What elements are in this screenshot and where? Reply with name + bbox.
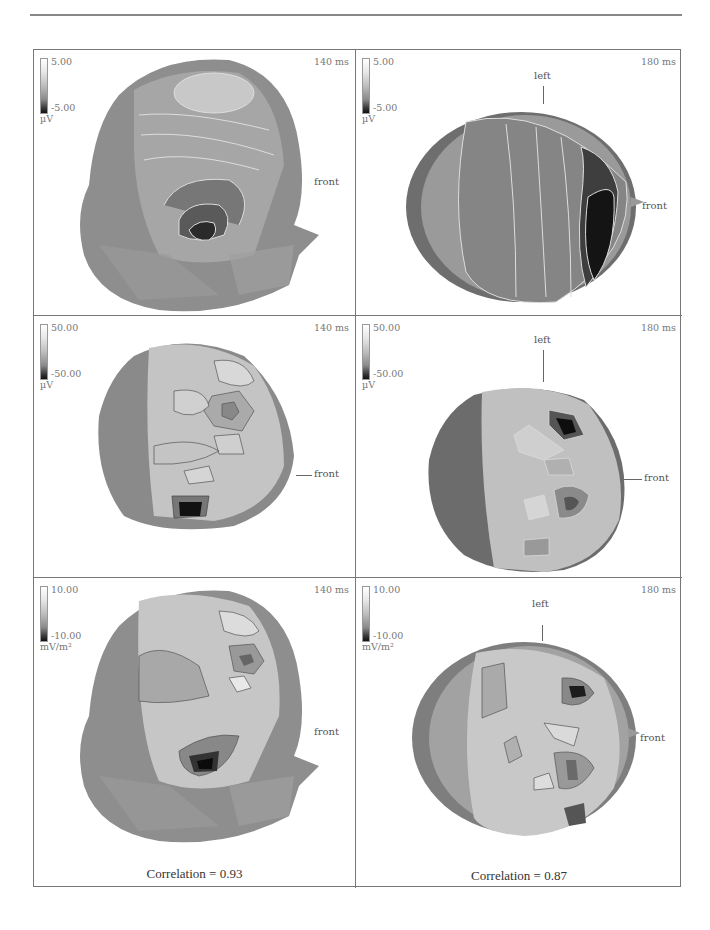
head-side-laplacian-map: [79, 586, 319, 846]
head-top-current-density-map: [424, 380, 634, 576]
color-scale-bar: [40, 586, 48, 642]
scale-unit-label: µV: [362, 113, 375, 124]
scale-max-label: 50.00: [51, 322, 78, 333]
left-label: left: [532, 598, 549, 609]
front-marker-line: [624, 479, 642, 480]
color-scale-bar: [362, 324, 370, 380]
panel-row1-right: 5.00 -5.00 µV 180 ms left front: [356, 50, 682, 316]
front-label: front: [640, 732, 665, 743]
time-label: 180 ms: [641, 322, 676, 333]
page-header-rule: [30, 14, 682, 16]
scale-max-label: 5.00: [373, 56, 394, 67]
scale-unit-label: mV/m²: [40, 641, 72, 652]
figure-grid: 5.00 -5.00 µV 140 ms front 5.00 -5.00 µV…: [33, 49, 681, 887]
time-label: 180 ms: [641, 56, 676, 67]
color-scale-bar: [40, 324, 48, 380]
correlation-caption: Correlation = 0.93: [34, 866, 355, 882]
time-label: 140 ms: [314, 322, 349, 333]
scale-max-label: 50.00: [373, 322, 400, 333]
head-side-current-density-map: [94, 336, 294, 536]
head-side-potential-map: [79, 55, 319, 315]
front-label: front: [314, 726, 339, 737]
time-label: 140 ms: [314, 584, 349, 595]
color-scale-bar: [362, 58, 370, 114]
left-marker-line: [543, 350, 544, 382]
front-label: front: [644, 472, 669, 483]
scale-min-label: -10.00: [373, 630, 403, 641]
panel-row1-left: 5.00 -5.00 µV 140 ms front: [34, 50, 356, 316]
correlation-caption: Correlation = 0.87: [356, 868, 682, 884]
scale-min-label: -5.00: [373, 102, 397, 113]
head-top-potential-map: [396, 102, 646, 312]
scale-unit-label: µV: [362, 379, 375, 390]
scale-unit-label: µV: [40, 113, 53, 124]
panel-row3-right: 10.00 -10.00 mV/m² 180 ms left front Cor…: [356, 578, 682, 888]
time-label: 180 ms: [641, 584, 676, 595]
front-label: front: [642, 200, 667, 211]
front-label: front: [314, 468, 339, 479]
front-label: front: [314, 176, 339, 187]
panel-row3-left: 10.00 -10.00 mV/m² 140 ms front Correlat…: [34, 578, 356, 888]
front-marker-line: [296, 475, 312, 476]
scale-max-label: 10.00: [51, 584, 78, 595]
scale-min-label: -10.00: [51, 630, 81, 641]
scale-min-label: -50.00: [51, 368, 81, 379]
panel-row2-right: 50.00 -50.00 µV 180 ms left front: [356, 316, 682, 578]
scale-max-label: 5.00: [51, 56, 72, 67]
color-scale-bar: [40, 58, 48, 114]
scale-max-label: 10.00: [373, 584, 400, 595]
scale-unit-label: µV: [40, 379, 53, 390]
left-label: left: [534, 334, 551, 345]
head-top-laplacian-map: [404, 638, 644, 838]
color-scale-bar: [362, 586, 370, 642]
scale-min-label: -5.00: [51, 102, 75, 113]
left-label: left: [534, 70, 551, 81]
panel-row2-left: 50.00 -50.00 µV 140 ms front: [34, 316, 356, 578]
scale-unit-label: mV/m²: [362, 641, 394, 652]
scale-min-label: -50.00: [373, 368, 403, 379]
time-label: 140 ms: [314, 56, 349, 67]
